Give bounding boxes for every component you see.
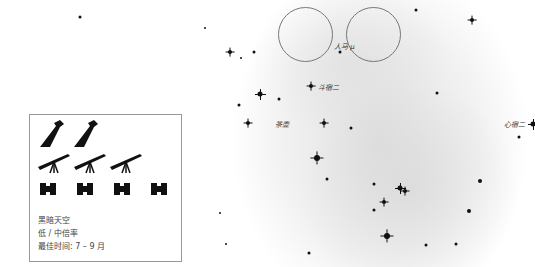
magnification-text: 低 / 中倍率	[38, 227, 105, 240]
star	[436, 92, 439, 95]
star	[518, 136, 521, 139]
star	[314, 155, 320, 161]
star	[467, 209, 471, 213]
star	[384, 233, 390, 239]
star	[278, 98, 281, 101]
star	[531, 122, 535, 127]
star	[322, 121, 326, 125]
best-time-text: 最佳时间: 7 – 9 月	[38, 240, 105, 253]
star	[309, 84, 313, 88]
star	[455, 243, 458, 246]
field-of-view-circle	[278, 7, 333, 62]
star	[326, 178, 329, 181]
star	[425, 244, 428, 247]
star	[308, 252, 311, 255]
star	[246, 121, 250, 125]
star	[470, 18, 474, 22]
star	[219, 212, 221, 214]
star	[350, 127, 353, 130]
star	[240, 57, 242, 59]
dobsonian-telescope-icon	[72, 120, 106, 148]
star	[204, 27, 206, 29]
star	[258, 92, 263, 97]
star-label-antares-area: 心宿二	[504, 119, 525, 129]
star	[373, 209, 376, 212]
observing-legend: 黑暗天空 低 / 中倍率 最佳时间: 7 – 9 月	[29, 114, 182, 262]
large-telescope-row	[38, 120, 106, 148]
star	[478, 179, 482, 183]
star-label-lambda-sgr: 斗宿二	[318, 82, 339, 92]
binoculars-icon	[149, 182, 186, 196]
field-of-view-circle	[346, 7, 401, 62]
star	[403, 189, 407, 193]
refractor-telescope-icon	[110, 152, 146, 174]
star	[253, 51, 256, 54]
star	[228, 50, 232, 54]
sky-condition-text: 黑暗天空	[38, 214, 105, 227]
binoculars-row	[38, 182, 186, 196]
star	[373, 183, 376, 186]
binoculars-icon	[38, 182, 75, 196]
small-telescope-row	[38, 152, 146, 174]
star	[238, 104, 241, 107]
refractor-telescope-icon	[74, 152, 110, 174]
legend-text: 黑暗天空 低 / 中倍率 最佳时间: 7 – 9 月	[38, 214, 105, 253]
star	[415, 9, 418, 12]
asterism-label-teapot: 茶壶	[275, 119, 289, 129]
refractor-telescope-icon	[38, 152, 74, 174]
binoculars-icon	[75, 182, 112, 196]
star	[79, 16, 82, 19]
dobsonian-telescope-icon	[38, 120, 72, 148]
star	[382, 200, 386, 204]
star-label-sagittarius-mu: 人马 μ	[334, 41, 355, 51]
star	[225, 243, 227, 245]
binoculars-icon	[112, 182, 149, 196]
